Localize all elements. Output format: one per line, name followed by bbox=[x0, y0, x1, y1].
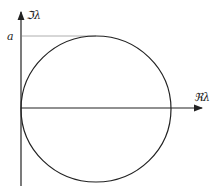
diagram-canvas: ℑλ ℜλ a bbox=[0, 0, 220, 194]
circle-curve bbox=[21, 36, 171, 182]
real-axis-label: ℜλ bbox=[194, 91, 210, 104]
imaginary-axis-label: ℑλ bbox=[26, 9, 41, 22]
a-label: a bbox=[7, 30, 14, 43]
